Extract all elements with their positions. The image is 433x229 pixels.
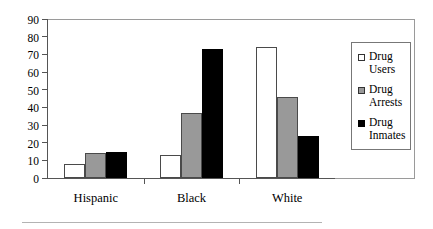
x-axis-label-black: Black <box>144 191 240 206</box>
legend-label-users: DrugUsers <box>369 50 395 76</box>
bars-layer <box>48 19 335 178</box>
bar-white-inmates <box>298 136 319 178</box>
y-axis-tick: 40 <box>0 100 47 114</box>
y-axis-tick-label: 30 <box>28 119 48 133</box>
y-axis: 9080706050403020100 <box>0 0 47 229</box>
x-axis-tick-mark <box>239 179 240 184</box>
legend-label-inmates: DrugInmates <box>369 116 405 142</box>
chart-legend: DrugUsersDrugArrestsDrugInmates <box>351 42 411 150</box>
bar-group-hispanic <box>48 19 144 178</box>
gray-square-icon <box>358 87 365 94</box>
legend-label-line1: Drug <box>369 50 395 63</box>
x-axis-label-white: White <box>239 191 335 206</box>
y-axis-tick: 90 <box>0 12 47 26</box>
legend-item-arrests[interactable]: DrugArrests <box>358 83 406 109</box>
y-axis-tick-mark <box>42 142 47 143</box>
bar-hispanic-users <box>64 164 85 178</box>
y-axis-tick-mark <box>42 19 47 20</box>
y-axis-tick-label: 60 <box>28 66 48 80</box>
legend-label-line2: Arrests <box>369 96 402 109</box>
y-axis-tick-label: 90 <box>28 13 48 27</box>
legend-item-users[interactable]: DrugUsers <box>358 50 406 76</box>
y-axis-tick: 0 <box>0 171 47 185</box>
y-axis-tick-mark <box>42 36 47 37</box>
footer-divider <box>22 222 322 223</box>
bar-group-white <box>239 19 335 178</box>
x-axis-label-hispanic: Hispanic <box>48 191 144 206</box>
y-axis-tick: 50 <box>0 83 47 97</box>
y-axis-tick: 80 <box>0 30 47 44</box>
y-axis-tick-label: 80 <box>28 31 48 45</box>
bar-black-users <box>160 155 181 178</box>
legend-label-line2: Users <box>369 63 395 76</box>
y-axis-tick-label: 0 <box>33 172 47 186</box>
y-axis-tick: 10 <box>0 153 47 167</box>
y-axis-tick-label: 20 <box>28 137 48 151</box>
y-axis-tick-mark <box>42 125 47 126</box>
y-axis-tick-label: 10 <box>28 154 48 168</box>
bar-white-users <box>256 47 277 178</box>
legend-label-line1: Drug <box>369 116 405 129</box>
x-axis-tick-mark <box>144 179 145 184</box>
plot-frame-bottom-extension <box>335 178 415 179</box>
y-axis-tick: 70 <box>0 47 47 61</box>
y-axis-tick: 30 <box>0 118 47 132</box>
y-axis-tick-mark <box>42 54 47 55</box>
legend-label-arrests: DrugArrests <box>369 83 402 109</box>
y-axis-tick-mark <box>42 89 47 90</box>
bar-white-arrests <box>277 97 298 178</box>
bar-hispanic-arrests <box>85 153 106 178</box>
y-axis-tick-mark <box>42 160 47 161</box>
plot-frame-right-border <box>414 19 415 179</box>
bar-hispanic-inmates <box>106 152 127 179</box>
white-square-icon <box>358 54 365 61</box>
legend-item-inmates[interactable]: DrugInmates <box>358 116 406 142</box>
bar-black-arrests <box>181 113 202 178</box>
y-axis-tick-label: 40 <box>28 101 48 115</box>
bar-black-inmates <box>202 49 223 178</box>
y-axis-tick: 20 <box>0 136 47 150</box>
bar-group-black <box>144 19 240 178</box>
y-axis-tick-label: 70 <box>28 48 48 62</box>
y-axis-tick: 60 <box>0 65 47 79</box>
legend-label-line1: Drug <box>369 83 402 96</box>
black-square-icon <box>358 120 365 127</box>
legend-label-line2: Inmates <box>369 129 405 142</box>
y-axis-tick-mark <box>42 107 47 108</box>
x-axis: HispanicBlackWhite <box>48 179 335 209</box>
bar-chart-figure: 9080706050403020100 HispanicBlackWhite D… <box>0 0 433 229</box>
y-axis-tick-mark <box>42 178 47 179</box>
y-axis-tick-mark <box>42 72 47 73</box>
y-axis-tick-label: 50 <box>28 84 48 98</box>
